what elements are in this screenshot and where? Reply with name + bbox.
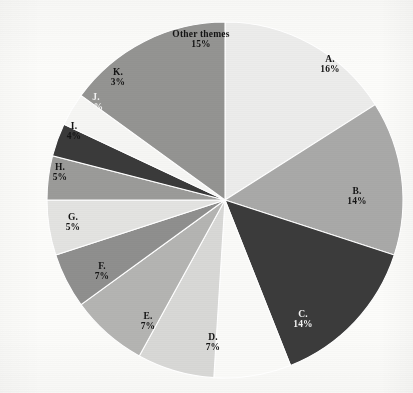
pie-chart-svg — [0, 0, 413, 393]
pie-slices-group — [47, 22, 403, 378]
pie-chart: A.16%B.14%C.14%D.7%E.7%F.7%G.5%H.5%I.4%J… — [0, 0, 413, 393]
pie-chart-page: A.16%B.14%C.14%D.7%E.7%F.7%G.5%H.5%I.4%J… — [0, 0, 413, 393]
